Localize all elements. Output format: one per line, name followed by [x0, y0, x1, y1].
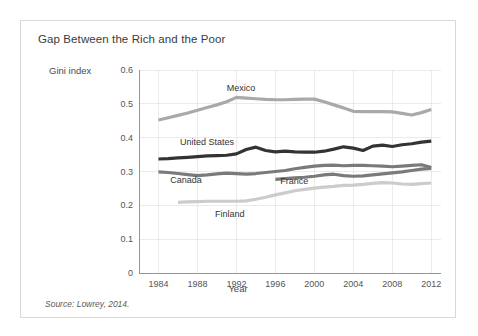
page-title: Gap Between the Rich and the Poor	[38, 33, 225, 45]
y-tick-label: 0.4	[107, 133, 133, 143]
line-chart-svg	[139, 70, 441, 273]
series-label-mexico: Mexico	[227, 83, 256, 93]
screenshot-root: Gap Between the Rich and the Poor Gini i…	[0, 0, 478, 336]
series-label-finland: Finland	[215, 209, 245, 219]
series-label-france: France	[280, 176, 308, 186]
series-label-canada: Canada	[170, 175, 202, 185]
series-line-mexico	[158, 97, 431, 120]
y-tick-label: 0.6	[107, 65, 133, 75]
figure-card: Gap Between the Rich and the Poor Gini i…	[20, 20, 456, 318]
series-label-united-states: United States	[180, 137, 234, 147]
y-axis-title: Gini index	[49, 65, 91, 76]
series-lines	[158, 97, 431, 202]
x-axis-title: Year	[21, 283, 455, 294]
y-tick-label: 0.5	[107, 99, 133, 109]
y-tick-label: 0	[107, 268, 133, 278]
y-tick-label: 0.2	[107, 200, 133, 210]
y-tick-label: 0.3	[107, 167, 133, 177]
source-note: Source: Lowrey, 2014.	[45, 299, 129, 309]
plot-area: 00.10.20.30.40.50.6 19841988199219962000…	[139, 70, 441, 273]
y-tick-label: 0.1	[107, 234, 133, 244]
